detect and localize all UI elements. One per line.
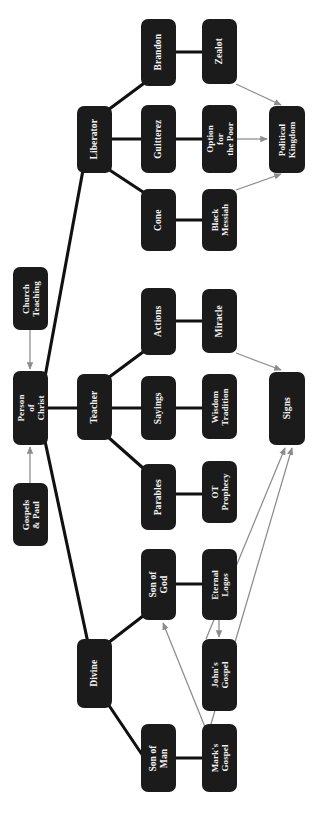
node-label: Church Teaching (21, 281, 41, 316)
node-rotation-wrapper: John's Gospel (202, 639, 237, 711)
edge-teacher-to-parables (108, 437, 143, 468)
node-rotation-wrapper: Gospels & Paul (13, 483, 48, 546)
node-son-of-man[interactable]: Son of Man (141, 724, 176, 792)
node-rotation-wrapper: Actions (141, 288, 176, 355)
arrow-miracle-to-signs (236, 353, 281, 370)
node-guitterez[interactable]: Guitterez (141, 105, 176, 173)
node-rotation-wrapper: Son of God (141, 549, 176, 620)
node-label: Eternal Logos (210, 567, 230, 602)
node-label: OT Prophecy (210, 473, 230, 510)
edge-liberator-to-brandon (108, 84, 143, 110)
node-ot-prophecy[interactable]: OT Prophecy (202, 461, 237, 523)
node-gospels-paul[interactable]: Gospels & Paul (13, 483, 48, 546)
node-rotation-wrapper: Brandon (141, 19, 176, 86)
node-person-of-christ[interactable]: Person of Christ (13, 371, 48, 445)
arrow-marks-gospel-to-son-of-god (163, 623, 205, 727)
node-rotation-wrapper: Signs (269, 372, 305, 445)
node-label: Parables (153, 479, 164, 515)
node-political-kingdom[interactable]: Political Kingdom (269, 106, 305, 173)
node-rotation-wrapper: Wisdom Tradition (202, 374, 237, 439)
node-label: Brandon (153, 34, 164, 71)
node-rotation-wrapper: Teacher (77, 374, 112, 440)
node-label: Son of Man (148, 741, 169, 776)
thick-edge-group (45, 52, 202, 758)
node-black-messiah[interactable]: Black Messiah (202, 189, 237, 251)
edge-divine-to-son-of-man (108, 704, 143, 756)
node-church-teaching[interactable]: Church Teaching (13, 267, 48, 330)
node-rotation-wrapper: Church Teaching (13, 267, 48, 330)
edge-person-of-christ-to-liberator (45, 170, 83, 377)
node-wisdom-tradition[interactable]: Wisdom Tradition (202, 374, 237, 439)
node-label: Son of God (148, 567, 169, 602)
node-marks-gospel[interactable]: Mark's Gospel (202, 724, 237, 792)
node-actions[interactable]: Actions (141, 288, 176, 355)
node-rotation-wrapper: Eternal Logos (202, 549, 237, 620)
node-brandon[interactable]: Brandon (141, 19, 176, 86)
node-divine[interactable]: Divine (77, 639, 112, 708)
node-label: Miracle (214, 304, 225, 339)
node-zealot[interactable]: Zealot (202, 19, 237, 84)
node-teacher[interactable]: Teacher (77, 374, 112, 440)
node-eternal-logos[interactable]: Eternal Logos (202, 549, 237, 620)
node-johns-gospel[interactable]: John's Gospel (202, 639, 237, 711)
node-label: Actions (153, 304, 164, 339)
node-label: Signs (282, 391, 293, 427)
node-label: John's Gospel (210, 658, 230, 693)
node-label: Mark's Gospel (210, 741, 230, 776)
node-rotation-wrapper: Liberator (77, 106, 112, 173)
node-parables[interactable]: Parables (141, 464, 176, 530)
node-rotation-wrapper: Zealot (202, 19, 237, 84)
node-rotation-wrapper: Son of Man (141, 724, 176, 792)
node-signs[interactable]: Signs (269, 372, 305, 445)
node-rotation-wrapper: Black Messiah (202, 189, 237, 251)
node-rotation-wrapper: Sayings (141, 376, 176, 440)
node-label: Divine (89, 656, 100, 691)
diagram-canvas: BrandonZealotLiberatorGuitterezOption fo… (0, 0, 313, 817)
node-rotation-wrapper: Miracle (202, 289, 237, 353)
node-son-of-god[interactable]: Son of God (141, 549, 176, 620)
node-label: Black Messiah (210, 203, 230, 238)
edge-liberator-to-cone (108, 169, 143, 192)
node-label: Teacher (89, 390, 100, 425)
node-rotation-wrapper: Person of Christ (13, 371, 48, 445)
edge-divine-to-son-of-god (108, 616, 143, 643)
node-rotation-wrapper: Cone (141, 189, 176, 251)
node-label: Liberator (89, 119, 100, 159)
node-label: Political Kingdom (277, 121, 297, 158)
node-label: Wisdom Tradition (210, 388, 230, 425)
node-option-poor[interactable]: Option for the Poor (202, 105, 237, 173)
node-rotation-wrapper: Political Kingdom (269, 106, 305, 173)
node-label: Sayings (153, 391, 164, 426)
node-liberator[interactable]: Liberator (77, 106, 112, 173)
node-rotation-wrapper: Divine (77, 639, 112, 708)
edge-person-of-christ-to-divine (45, 441, 88, 643)
node-rotation-wrapper: OT Prophecy (202, 461, 237, 523)
node-rotation-wrapper: Guitterez (141, 105, 176, 173)
arrow-black-messiah-to-political-kingdom (236, 174, 281, 190)
node-label: Cone (153, 203, 164, 238)
node-rotation-wrapper: Mark's Gospel (202, 724, 237, 792)
node-rotation-wrapper: Parables (141, 464, 176, 530)
node-label: Zealot (214, 34, 225, 69)
node-label: Person of Christ (16, 391, 46, 426)
node-rotation-wrapper: Option for the Poor (202, 105, 237, 173)
arrow-zealot-to-political-kingdom (236, 84, 281, 105)
node-label: Gospels & Paul (21, 497, 41, 532)
node-miracle[interactable]: Miracle (202, 289, 237, 353)
node-cone[interactable]: Cone (141, 189, 176, 251)
node-label: Option for the Poor (205, 122, 235, 157)
node-label: Guitterez (153, 119, 164, 158)
edge-teacher-to-actions (108, 352, 143, 378)
node-sayings[interactable]: Sayings (141, 376, 176, 440)
